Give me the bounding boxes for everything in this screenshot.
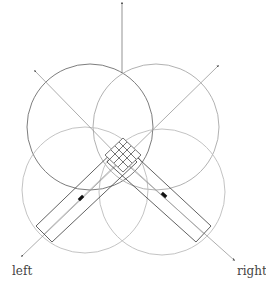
junction-diamond [105, 138, 141, 172]
upper-left-axis-arrow [35, 71, 122, 160]
junction-grid [105, 138, 141, 172]
axes [22, 3, 234, 260]
left-label: left [12, 265, 32, 277]
lower-left-axis-arrow [22, 160, 122, 256]
upper-right-axis-arrow [122, 66, 218, 160]
polar-pattern-diagram [0, 0, 266, 290]
right-label: right [237, 265, 266, 277]
